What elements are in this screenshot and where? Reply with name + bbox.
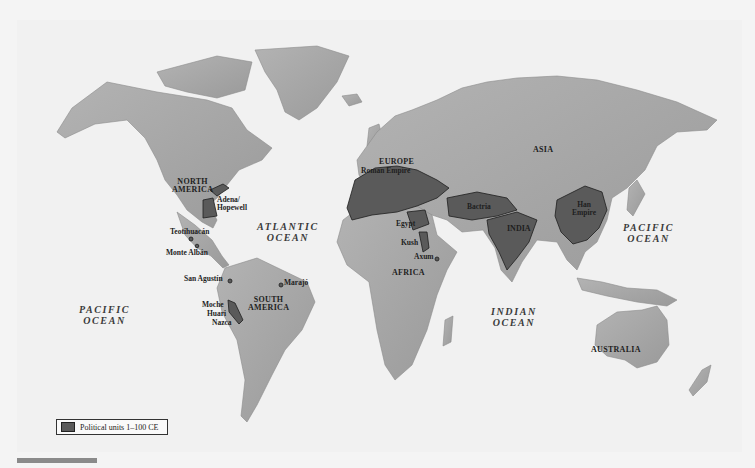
label-adena-hopewell: Adena/ Hopewell xyxy=(217,196,247,212)
label-indian-ocean: INDIAN OCEAN xyxy=(491,307,537,328)
label-line: OCEAN xyxy=(623,234,674,245)
label-line: AMERICA xyxy=(172,186,213,194)
san-agustin-marker xyxy=(228,279,232,283)
label-line: Huari xyxy=(207,310,226,318)
label-line: Axum xyxy=(414,253,434,261)
legend-swatch-political-units xyxy=(61,422,75,432)
label-huari: Huari xyxy=(207,310,226,318)
world-map: NORTH AMERICA SOUTH AMERICA EUROPE AFRIC… xyxy=(17,20,742,452)
label-line: Kush xyxy=(401,239,418,247)
label-line: Marajó xyxy=(284,279,308,287)
label-san-agustin: San Agustín xyxy=(184,275,223,283)
label-line: AUSTRALIA xyxy=(591,346,641,354)
iceland-landmass xyxy=(342,94,362,106)
label-india: INDIA xyxy=(507,225,531,233)
label-line: ASIA xyxy=(533,146,553,154)
greenland-landmass xyxy=(255,46,349,120)
label-pacific-ocean-east: PACIFIC OCEAN xyxy=(623,223,674,244)
label-line: OCEAN xyxy=(491,318,537,329)
label-teotihuacan: Teotihuacán xyxy=(170,228,209,236)
legend-label: Political units 1–100 CE xyxy=(80,423,158,432)
label-north-america: NORTH AMERICA xyxy=(172,178,213,195)
label-monte-alban: Monte Albán xyxy=(166,249,208,257)
label-line: INDIA xyxy=(507,225,531,233)
label-line: AFRICA xyxy=(392,269,425,277)
label-asia: ASIA xyxy=(533,146,553,154)
label-africa: AFRICA xyxy=(392,269,425,277)
madagascar-landmass xyxy=(443,316,453,346)
label-line: Roman Empire xyxy=(361,167,410,175)
bottom-rule xyxy=(17,458,97,463)
map-legend: Political units 1–100 CE xyxy=(56,419,168,435)
label-line: Teotihuacán xyxy=(170,228,209,236)
label-line: AMERICA xyxy=(248,304,289,312)
label-han-empire: Han Empire xyxy=(572,201,596,217)
label-line: ATLANTIC xyxy=(257,222,319,233)
label-australia: AUSTRALIA xyxy=(591,346,641,354)
label-line: Hopewell xyxy=(217,204,247,212)
indonesia-landmass xyxy=(577,278,677,306)
label-line: Egypt xyxy=(396,220,415,228)
new-zealand-landmass xyxy=(689,365,711,396)
axum-marker xyxy=(435,257,439,261)
label-bactria: Bactria xyxy=(467,203,491,211)
label-roman-empire: Roman Empire xyxy=(361,167,410,175)
label-nazca: Nazca xyxy=(212,319,232,327)
label-line: Monte Albán xyxy=(166,249,208,257)
label-line: Empire xyxy=(572,209,596,217)
arctic-islands-landmass xyxy=(157,56,252,98)
marajo-marker xyxy=(279,283,283,287)
label-kush: Kush xyxy=(401,239,418,247)
label-atlantic-ocean: ATLANTIC OCEAN xyxy=(257,222,319,243)
label-line: OCEAN xyxy=(79,316,130,327)
australia-landmass xyxy=(595,306,669,368)
label-line: INDIAN xyxy=(491,307,537,318)
label-south-america: SOUTH AMERICA xyxy=(248,296,289,313)
label-line: Bactria xyxy=(467,203,491,211)
label-egypt: Egypt xyxy=(396,220,415,228)
label-moche: Moche xyxy=(202,301,224,309)
label-line: San Agustín xyxy=(184,275,223,283)
label-line: PACIFIC xyxy=(623,223,674,234)
label-line: OCEAN xyxy=(257,233,319,244)
label-line: Moche xyxy=(202,301,224,309)
label-marajo: Marajó xyxy=(284,279,308,287)
mississippi-region xyxy=(203,198,217,218)
india-region xyxy=(487,212,537,270)
label-pacific-ocean-west: PACIFIC OCEAN xyxy=(79,305,130,326)
label-line: PACIFIC xyxy=(79,305,130,316)
teotihuacan-marker xyxy=(189,237,193,241)
label-axum: Axum xyxy=(414,253,434,261)
label-line: Nazca xyxy=(212,319,232,327)
